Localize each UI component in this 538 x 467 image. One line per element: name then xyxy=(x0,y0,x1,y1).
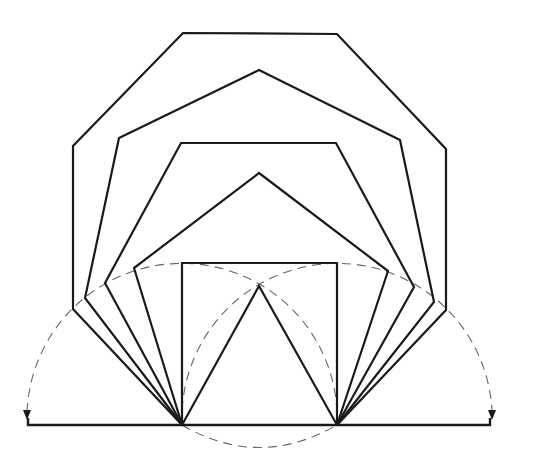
octagon-outline xyxy=(73,33,446,425)
base-line xyxy=(28,418,490,425)
heptagon-outline xyxy=(85,70,434,425)
pentagon-outline xyxy=(134,173,388,425)
construction-arcs xyxy=(23,263,496,447)
triangle-outline xyxy=(182,286,337,425)
polygon-construction-diagram xyxy=(0,0,538,467)
arc-lower xyxy=(182,425,337,448)
polygons xyxy=(73,33,446,425)
